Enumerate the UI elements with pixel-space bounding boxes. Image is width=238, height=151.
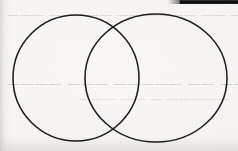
- right-circle: [85, 14, 227, 142]
- two-circles-figure: [0, 0, 238, 151]
- scanned-page: — —— ———— —— ————— ——— ———— —— ————— ———…: [0, 0, 238, 151]
- page-edge-bar: [180, 0, 238, 4]
- left-circle: [13, 15, 139, 141]
